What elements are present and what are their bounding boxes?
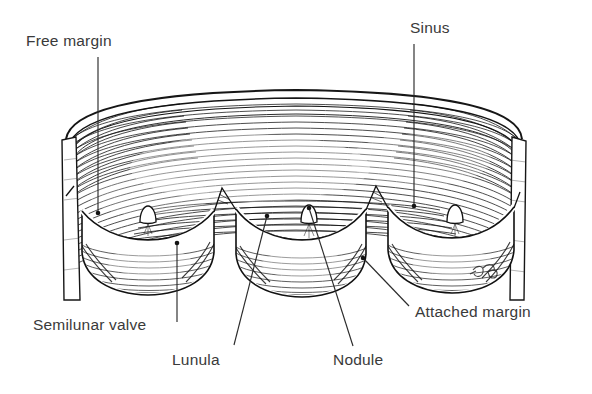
leader-dot-lunula [265,214,270,219]
leader-dot-sinus [412,204,417,209]
left-cut-edge [62,137,80,300]
label-nodule: Nodule [333,351,383,368]
anatomical-figure: Free marginSinusSemilunar valveLunulaNod… [0,0,592,394]
cusp-right-highlight [412,249,492,275]
cusp-middle-highlight [262,250,346,278]
cusp-left-highlight [108,248,192,276]
leader-dot-attached-margin [361,256,366,261]
leader-dot-free-margin [96,211,101,216]
label-attached-margin: Attached margin [415,303,531,320]
label-sinus: Sinus [410,19,450,36]
label-free-margin: Free margin [26,32,112,49]
label-semilunar-valve: Semilunar valve [33,316,146,333]
leader-dot-semilunar-valve [175,241,180,246]
leader-dot-nodule [307,206,312,211]
label-lunula: Lunula [172,351,220,368]
illustration-canvas: Free marginSinusSemilunar valveLunulaNod… [0,0,592,394]
